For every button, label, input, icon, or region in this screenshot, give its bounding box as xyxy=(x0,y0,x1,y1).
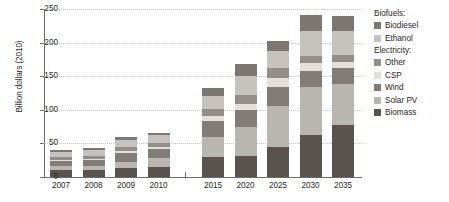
bar-group xyxy=(300,9,322,177)
legend-item-ethanol[interactable]: Ethanol xyxy=(374,34,449,43)
y-tick-label: 200 xyxy=(18,38,58,47)
bar-segment-ethanol[interactable] xyxy=(115,140,137,147)
stacked-bar[interactable] xyxy=(83,148,105,177)
y-tick-label: 50 xyxy=(18,138,58,147)
plot-area xyxy=(44,9,362,177)
legend-item-other[interactable]: Other xyxy=(374,58,449,67)
bar-segment-biomass[interactable] xyxy=(300,135,322,177)
bar-segment-ethanol[interactable] xyxy=(267,51,289,68)
legend-item-wind[interactable]: Wind xyxy=(374,83,449,92)
bar-segment-biomass[interactable] xyxy=(235,156,257,177)
bar-segment-wind[interactable] xyxy=(300,71,322,87)
bar-segment-ethanol[interactable] xyxy=(300,31,322,57)
legend-swatch-icon xyxy=(374,84,381,91)
bar-group xyxy=(50,9,72,177)
bar-segment-wind[interactable] xyxy=(115,153,137,161)
bar-segment-biodiesel[interactable] xyxy=(300,15,322,30)
y-tick-label: 100 xyxy=(18,105,58,114)
bar-group xyxy=(148,9,170,177)
x-tick-label: 2008 xyxy=(78,181,110,190)
legend-item-solar-pv[interactable]: Solar PV xyxy=(374,96,449,105)
bar-segment-biomass[interactable] xyxy=(202,157,224,177)
x-tick-label: 2007 xyxy=(45,181,77,190)
x-tick-label: 2035 xyxy=(327,181,359,190)
bar-segment-biodiesel[interactable] xyxy=(235,64,257,76)
bar-segment-wind[interactable] xyxy=(235,110,257,126)
legend-item-label: Solar PV xyxy=(385,96,417,105)
y-tick-label: 150 xyxy=(18,71,58,80)
axis-zero-line xyxy=(44,177,362,178)
legend-item-label: CSP xyxy=(385,71,402,80)
bar-segment-wind[interactable] xyxy=(267,87,289,106)
bar-segment-other[interactable] xyxy=(300,56,322,63)
bar-segment-solar-pv[interactable] xyxy=(235,127,257,157)
bar-segment-solar-pv[interactable] xyxy=(267,106,289,147)
stacked-bar-chart: Billion dollars (2010) Biofuels:Biodiese… xyxy=(0,0,449,202)
bar-segment-ethanol[interactable] xyxy=(148,135,170,142)
stacked-bar[interactable] xyxy=(148,133,170,177)
bar-segment-biomass[interactable] xyxy=(83,170,105,177)
legend-swatch-icon xyxy=(374,72,381,79)
y-tick-label: 0 xyxy=(18,172,58,181)
x-tick-label: 2030 xyxy=(295,181,327,190)
bar-segment-other[interactable] xyxy=(332,55,354,62)
bar-segment-biodiesel[interactable] xyxy=(202,88,224,95)
bar-group xyxy=(83,9,105,177)
legend-item-label: Biomass xyxy=(385,108,416,117)
legend-swatch-icon xyxy=(374,109,381,116)
bar-segment-biomass[interactable] xyxy=(332,125,354,177)
legend-swatch-icon xyxy=(374,97,381,104)
legend-item-label: Ethanol xyxy=(385,34,413,43)
bar-group xyxy=(267,9,289,177)
bar-segment-solar-pv[interactable] xyxy=(115,162,137,169)
legend-item-label: Biodiesel xyxy=(385,21,418,30)
legend-item-label: Wind xyxy=(385,83,404,92)
bar-segment-solar-pv[interactable] xyxy=(202,137,224,157)
stacked-bar[interactable] xyxy=(202,88,224,177)
bar-segment-other[interactable] xyxy=(267,68,289,78)
bar-segment-solar-pv[interactable] xyxy=(332,84,354,126)
bar-segment-csp[interactable] xyxy=(235,104,257,111)
bar-group xyxy=(235,9,257,177)
bar-segment-biomass[interactable] xyxy=(148,167,170,177)
bar-segment-biomass[interactable] xyxy=(267,147,289,177)
bar-group xyxy=(202,9,224,177)
bar-segment-other[interactable] xyxy=(202,109,224,116)
stacked-bar[interactable] xyxy=(235,64,257,177)
x-tick-label: 2025 xyxy=(262,181,294,190)
legend-item-label: Other xyxy=(385,58,405,67)
bar-segment-solar-pv[interactable] xyxy=(148,158,170,167)
stacked-bar[interactable] xyxy=(267,41,289,177)
bar-segment-biomass[interactable] xyxy=(115,168,137,177)
x-tick-label: 2010 xyxy=(143,181,175,190)
stacked-bar[interactable] xyxy=(300,15,322,177)
bar-segment-wind[interactable] xyxy=(202,121,224,136)
bar-group xyxy=(332,9,354,177)
bar-segment-ethanol[interactable] xyxy=(202,96,224,109)
bar-segment-wind[interactable] xyxy=(332,68,354,83)
bar-segment-ethanol[interactable] xyxy=(332,31,354,55)
bar-segment-csp[interactable] xyxy=(300,63,322,70)
bar-segment-solar-pv[interactable] xyxy=(300,87,322,135)
legend-swatch-icon xyxy=(374,59,381,66)
legend-item-biodiesel[interactable]: Biodiesel xyxy=(374,21,449,30)
bar-segment-other[interactable] xyxy=(235,95,257,104)
bar-segment-ethanol[interactable] xyxy=(235,76,257,95)
y-tick-label: 250 xyxy=(18,4,58,13)
x-tick-label: 2020 xyxy=(230,181,262,190)
bar-segment-biodiesel[interactable] xyxy=(267,41,289,51)
stacked-bar[interactable] xyxy=(332,16,354,177)
bar-segment-csp[interactable] xyxy=(267,78,289,87)
legend-group-header: Biofuels: xyxy=(374,9,449,18)
bar-group xyxy=(115,9,137,177)
legend-group-header: Electricity: xyxy=(374,46,449,55)
x-tick-label: 2009 xyxy=(110,181,142,190)
legend-item-csp[interactable]: CSP xyxy=(374,71,449,80)
bar-segment-wind[interactable] xyxy=(148,149,170,158)
legend-item-biomass[interactable]: Biomass xyxy=(374,108,449,117)
legend-swatch-icon xyxy=(374,35,381,42)
x-tick-label: 2015 xyxy=(197,181,229,190)
chart-legend: Biofuels:BiodieselEthanolElectricity:Oth… xyxy=(374,8,449,121)
stacked-bar[interactable] xyxy=(115,137,137,177)
bar-segment-biodiesel[interactable] xyxy=(332,16,354,31)
